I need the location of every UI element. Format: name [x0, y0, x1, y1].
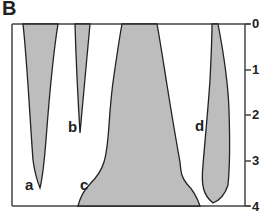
shape-label-c: c: [80, 176, 88, 193]
tick-label-0: 0: [252, 16, 259, 31]
panel-label: B: [2, 0, 16, 20]
shape-a: [23, 24, 58, 188]
shape-d: [202, 24, 229, 203]
tick-label-4: 4: [252, 199, 259, 214]
tick-label-3: 3: [252, 153, 259, 168]
tick-label-2: 2: [252, 107, 259, 122]
shape-label-d: d: [195, 117, 204, 134]
diagram-canvas: [0, 0, 266, 214]
tick-label-1: 1: [252, 62, 259, 77]
shape-label-b: b: [68, 118, 77, 135]
axis-ticks: [245, 24, 251, 206]
shape-c: [78, 24, 200, 206]
shape-label-a: a: [25, 176, 33, 193]
shape-b: [75, 24, 90, 133]
